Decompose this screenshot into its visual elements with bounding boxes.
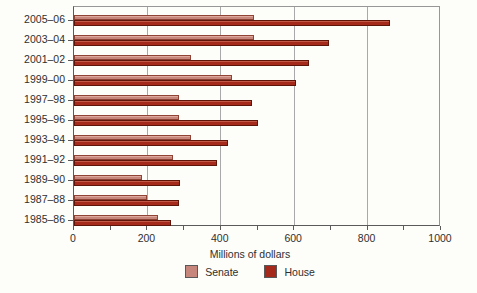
x-axis-tick-700	[330, 226, 331, 230]
y-axis-tick-1987-88	[68, 200, 73, 201]
y-axis-tick-1991-92	[68, 160, 73, 161]
y-axis-tick-1999-00	[68, 80, 73, 81]
y-axis-tick-1993-94	[68, 140, 73, 141]
y-axis-tick-1997-98	[68, 100, 73, 101]
x-axis-title: Millions of dollars	[67, 248, 433, 260]
bar-house-1993-94	[74, 140, 228, 146]
x-axis-tick-900	[403, 226, 404, 230]
y-axis-label-2005-06: 2005–06	[0, 13, 65, 26]
bar-house-1987-88	[74, 200, 179, 206]
legend: Senate House	[67, 265, 433, 278]
x-axis-tick-0	[73, 226, 74, 230]
y-axis-label-1987-88: 1987–88	[0, 193, 65, 206]
x-axis-tick-600	[293, 226, 294, 230]
campaign-spending-bar-chart: Millions of dollars Senate House 2005–06…	[0, 0, 477, 293]
x-axis-tick-300	[183, 226, 184, 230]
x-axis-tick-label-600: 600	[284, 232, 302, 244]
x-axis-tick-100	[110, 226, 111, 230]
bar-house-1989-90	[74, 180, 180, 186]
x-axis-tick-1000	[440, 226, 441, 230]
x-axis-tick-label-1000: 1000	[428, 232, 451, 244]
x-axis-tick-800	[367, 226, 368, 230]
x-axis-tick-400	[220, 226, 221, 230]
x-axis-tick-200	[146, 226, 147, 230]
x-axis-tick-label-800: 800	[358, 232, 376, 244]
y-axis-label-1985-86: 1985–86	[0, 213, 65, 226]
x-axis-tick-500	[257, 226, 258, 230]
x-axis-tick-label-0: 0	[70, 232, 76, 244]
plot-area	[73, 6, 440, 226]
y-axis-label-1989-90: 1989–90	[0, 173, 65, 186]
y-axis-tick-1989-90	[68, 180, 73, 181]
y-axis-label-2001-02: 2001–02	[0, 53, 65, 66]
legend-item-house: House	[264, 265, 314, 278]
y-axis-label-1995-96: 1995–96	[0, 113, 65, 126]
y-axis-tick-2003-04	[68, 40, 73, 41]
house-swatch-icon	[264, 265, 277, 278]
bar-house-2003-04	[74, 40, 329, 46]
bar-house-1997-98	[74, 100, 252, 106]
y-axis-label-1993-94: 1993–94	[0, 133, 65, 146]
y-axis-tick-1985-86	[68, 220, 73, 221]
y-axis-label-1997-98: 1997–98	[0, 93, 65, 106]
gridline-800	[367, 7, 368, 225]
y-axis-label-1999-00: 1999–00	[0, 73, 65, 86]
bar-house-2001-02	[74, 60, 309, 66]
bar-house-2005-06	[74, 20, 390, 26]
senate-swatch-icon	[185, 265, 198, 278]
legend-label-senate: Senate	[205, 266, 238, 278]
y-axis-tick-2005-06	[68, 20, 73, 21]
y-axis-tick-1995-96	[68, 120, 73, 121]
bar-house-1995-96	[74, 120, 258, 126]
bar-house-1985-86	[74, 220, 171, 226]
bar-house-1991-92	[74, 160, 217, 166]
x-axis-tick-label-200: 200	[138, 232, 156, 244]
y-axis-label-2003-04: 2003–04	[0, 33, 65, 46]
y-axis-label-1991-92: 1991–92	[0, 153, 65, 166]
bar-house-1999-00	[74, 80, 296, 86]
x-axis-tick-label-400: 400	[211, 232, 229, 244]
legend-label-house: House	[284, 266, 314, 278]
y-axis-tick-2001-02	[68, 60, 73, 61]
legend-item-senate: Senate	[185, 265, 238, 278]
